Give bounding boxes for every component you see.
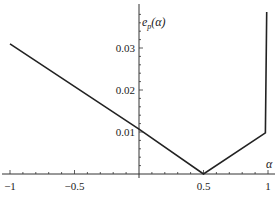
chart: −1−0.50.51 0.010.020.03 ep(α) α	[0, 0, 279, 198]
series-line	[10, 12, 267, 174]
y-tick-label: 0.03	[116, 42, 136, 54]
x-tick-labels: −1−0.50.51	[4, 180, 271, 192]
y-tick-label: 0.02	[116, 84, 135, 96]
x-tick-label: −0.5	[65, 180, 85, 192]
y-ticks	[139, 14, 143, 165]
x-axis-label: α	[266, 157, 273, 171]
y-axis-label: ep(α)	[142, 15, 166, 31]
x-tick-label: 0.5	[197, 180, 211, 192]
y-tick-labels: 0.010.020.03	[116, 42, 136, 138]
x-tick-label: −1	[4, 180, 16, 192]
y-tick-label: 0.01	[116, 126, 135, 138]
x-tick-label: 1	[265, 180, 271, 192]
